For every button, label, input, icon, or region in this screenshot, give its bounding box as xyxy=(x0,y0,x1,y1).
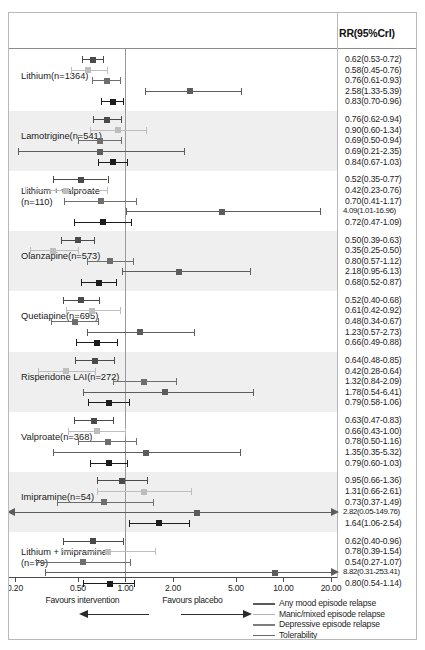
ci-cap-left xyxy=(61,548,62,555)
ci-cap-left xyxy=(61,237,62,244)
ci-cap-left xyxy=(82,56,83,63)
ci-cap-right xyxy=(103,56,104,63)
ci-cap-right xyxy=(117,339,118,346)
estimate-row xyxy=(9,437,337,446)
estimate-row xyxy=(9,246,337,255)
estimate-row xyxy=(9,416,337,425)
ci-cap-right xyxy=(127,159,128,166)
x-axis-tick xyxy=(236,578,237,582)
rr-value: 0.62(0.40-0.96) xyxy=(345,536,402,546)
x-axis-tick-label: 5.00 xyxy=(216,583,256,593)
x-axis-tick-label: 2.00 xyxy=(153,583,193,593)
rr-value: 0.79(0.58-1.06) xyxy=(345,397,402,407)
rr-value: 0.76(0.62-0.94) xyxy=(345,114,402,124)
point-estimate-marker xyxy=(92,358,98,364)
ci-cap-left xyxy=(87,329,88,336)
rr-value: 0.48(0.34-0.67) xyxy=(345,316,402,326)
x-axis-tick-label: 10.00 xyxy=(263,583,303,593)
point-estimate-marker xyxy=(104,78,110,84)
ci-cap-right xyxy=(253,389,254,396)
ci-cap-left xyxy=(81,279,82,286)
rr-value: 1.64(1.06-2.54) xyxy=(345,518,402,528)
ci-cap-right xyxy=(94,237,95,244)
right-direction-arrowhead xyxy=(243,610,252,618)
point-estimate-marker xyxy=(78,297,84,303)
point-estimate-marker xyxy=(101,499,107,505)
estimate-row xyxy=(9,207,337,216)
point-estimate-marker xyxy=(105,439,111,445)
estimate-row xyxy=(9,388,337,397)
ci-cap-right xyxy=(250,268,251,275)
ci-cap-right xyxy=(107,187,108,194)
rr-value: 0.58(0.45-0.76) xyxy=(345,65,402,75)
point-estimate-marker xyxy=(272,570,278,576)
estimate-row xyxy=(9,328,337,337)
rr-value: 1.35(0.35-5.32) xyxy=(345,447,402,457)
point-estimate-marker xyxy=(91,418,97,424)
estimate-row xyxy=(9,236,337,245)
rr-value: 0.35(0.25-0.50) xyxy=(345,245,402,255)
ci-cap-right xyxy=(114,357,115,364)
rr-value: 0.80(0.57-1.12) xyxy=(345,256,402,266)
estimate-row xyxy=(9,558,337,567)
ci-cap-left xyxy=(90,460,91,467)
ci-cap-right xyxy=(98,318,99,325)
estimate-row xyxy=(9,267,337,276)
ci-cap-left xyxy=(113,378,114,385)
rr-value: 0.52(0.35-0.77) xyxy=(345,174,402,184)
rr-value: 0.63(0.47-0.83) xyxy=(345,415,402,425)
ci-cap-left xyxy=(45,569,46,576)
ci-cap-left xyxy=(71,67,72,74)
ci-cap-right xyxy=(241,88,242,95)
ci-cap-left xyxy=(78,438,79,445)
estimate-row xyxy=(9,126,337,135)
ci-cap-left xyxy=(53,176,54,183)
rr-value: 8.82(0.31-253.41) xyxy=(343,567,400,576)
ci-cap-left xyxy=(92,77,93,84)
rr-value: 1.78(0.54-6.41) xyxy=(345,387,402,397)
ci-cap-left xyxy=(129,520,130,527)
estimate-row xyxy=(9,97,337,106)
ci-cap-left xyxy=(93,116,94,123)
estimate-row xyxy=(9,306,337,315)
estimate-row xyxy=(9,427,337,436)
rr-value: 0.52(0.40-0.68) xyxy=(345,295,402,305)
rr-value: 1.31(0.66-2.61) xyxy=(345,486,402,496)
point-estimate-marker xyxy=(115,127,121,133)
ci-cap-right xyxy=(146,127,147,134)
rr-value: 0.66(0.43-1.00) xyxy=(345,426,402,436)
x-axis-tick-label: 1.00 xyxy=(105,583,145,593)
point-estimate-marker xyxy=(187,88,193,94)
x-axis-tick xyxy=(173,578,174,582)
point-estimate-marker xyxy=(50,248,56,254)
estimate-row xyxy=(9,398,337,407)
ci-cap-right xyxy=(153,499,154,506)
estimate-row xyxy=(9,547,337,556)
rr-value: 0.69(0.50-0.94) xyxy=(345,135,402,145)
ci-cap-left xyxy=(38,368,39,375)
ci-cap-right xyxy=(240,449,241,456)
ci-cap-left xyxy=(66,307,67,314)
ci-cap-right xyxy=(120,77,121,84)
point-estimate-marker xyxy=(110,99,116,105)
estimate-row xyxy=(9,508,337,517)
ci-cap-left xyxy=(126,208,127,215)
ci-cap-right xyxy=(113,417,114,424)
ci-cap-right xyxy=(116,279,117,286)
legend-label: Manic/mixed episode relapse xyxy=(279,609,385,619)
confidence-interval-line xyxy=(122,271,250,272)
point-estimate-marker xyxy=(141,489,147,495)
left-direction-arrowhead xyxy=(79,610,88,618)
rr-value: 1.23(0.57-2.73) xyxy=(345,327,402,337)
estimate-row xyxy=(9,356,337,365)
ci-cap-left xyxy=(68,428,69,435)
ci-cap-right xyxy=(131,219,132,226)
confidence-interval-line xyxy=(83,392,253,393)
estimate-row xyxy=(9,537,337,546)
ci-cap-right xyxy=(78,247,79,254)
x-axis-tick xyxy=(283,578,284,582)
x-axis-tick xyxy=(78,578,79,582)
x-axis-tick xyxy=(125,578,126,582)
right-direction-arrow-line xyxy=(181,614,243,615)
estimate-row xyxy=(9,136,337,145)
